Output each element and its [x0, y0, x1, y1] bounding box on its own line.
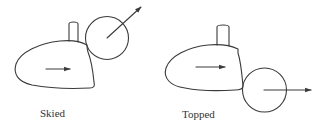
panel-skied: Skied [15, 7, 141, 119]
club-head [15, 41, 94, 89]
panel-label-skied: Skied [40, 107, 66, 119]
panel-label-topped: Topped [182, 108, 215, 120]
panel-topped: Topped [165, 25, 311, 120]
ball-direction-arrow-icon [107, 7, 141, 38]
club-hosel [217, 25, 229, 46]
club-head [165, 45, 243, 91]
golf-contact-diagram: Skied Topped [0, 0, 330, 129]
club-hosel [69, 22, 78, 42]
